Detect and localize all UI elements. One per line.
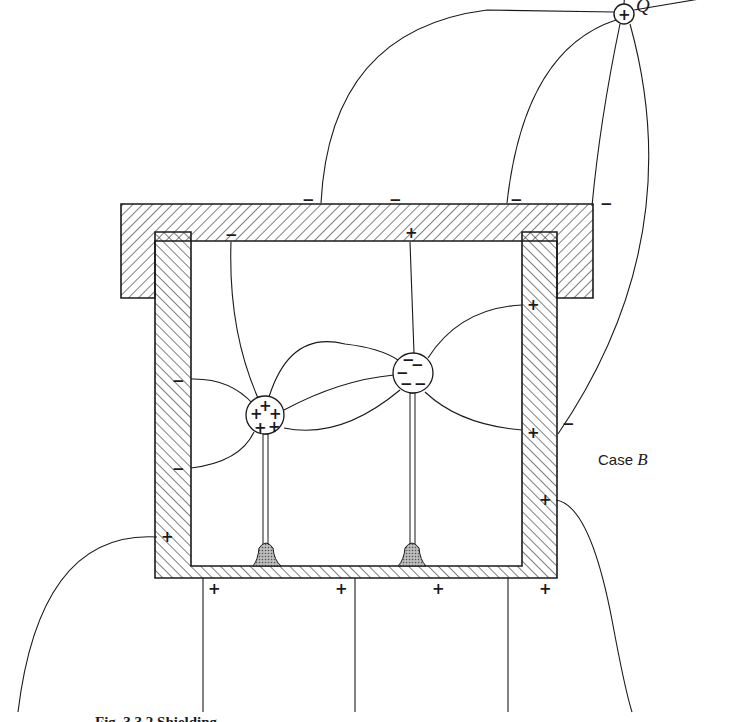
field-line-right-out [556, 500, 632, 712]
svg-text:−: − [411, 356, 424, 374]
wall-charge-signs: − − + + + − + [161, 296, 575, 546]
svg-text:+: + [405, 224, 418, 242]
svg-text:+: + [335, 580, 348, 598]
svg-text:+: + [527, 296, 540, 314]
negative-sphere: − − − − − [393, 351, 433, 393]
svg-text:−: − [172, 372, 185, 390]
external-charge-q: + Q [614, 0, 650, 24]
conducting-case [121, 204, 593, 578]
svg-text:+: + [618, 6, 631, 24]
charge-label-q: Q [636, 0, 650, 16]
svg-text:+: + [161, 528, 174, 546]
svg-text:+: + [527, 424, 540, 442]
svg-text:−: − [510, 191, 523, 209]
svg-text:+: + [208, 580, 221, 598]
pedestal-right [398, 543, 426, 566]
svg-text:+: + [539, 580, 552, 598]
field-line-in-8 [428, 305, 522, 358]
internal-field-lines [191, 242, 522, 468]
case-body [155, 232, 557, 578]
base-charge-signs: + + + + [208, 580, 552, 598]
svg-text:−: − [600, 195, 613, 213]
field-line-in-9 [425, 392, 522, 430]
field-line-q-to-lid-3 [592, 24, 620, 206]
pedestal-left [253, 543, 281, 566]
field-line-left-out [18, 537, 157, 712]
field-line-in-7 [284, 390, 400, 430]
svg-text:+: + [432, 580, 445, 598]
figure-caption: Fig. 3.3.2 Shielding... [95, 714, 229, 722]
field-line-q-out [634, 0, 753, 10]
field-line-q-to-lid-2 [507, 20, 616, 203]
shielding-diagram: + + + + + − − − − − + Q − − − − − + − − … [0, 0, 753, 722]
field-line-in-2 [410, 242, 414, 353]
svg-text:+: + [254, 419, 267, 437]
svg-text:−: − [414, 375, 427, 393]
svg-text:−: − [172, 460, 185, 478]
svg-text:+: + [268, 418, 281, 436]
field-line-in-3 [191, 379, 253, 404]
field-line-in-1 [231, 242, 258, 398]
svg-text:−: − [400, 375, 413, 393]
field-line-in-6 [284, 375, 394, 410]
field-line-q-to-lid-1 [321, 10, 614, 203]
svg-text:−: − [389, 191, 402, 209]
svg-text:−: − [562, 415, 575, 433]
svg-text:+: + [539, 491, 552, 509]
field-line-in-4 [191, 432, 254, 468]
svg-text:−: − [302, 191, 315, 209]
case-label: Case B [598, 450, 648, 469]
svg-text:−: − [225, 226, 238, 244]
positive-sphere: + + + + + [246, 396, 284, 437]
